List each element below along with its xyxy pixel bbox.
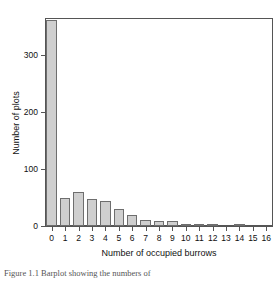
- x-axis-tick: [266, 227, 267, 231]
- x-axis-tick: [186, 227, 187, 231]
- y-axis-tick-label: 0: [12, 222, 38, 231]
- x-axis-tick: [65, 227, 66, 231]
- figure-container: 0100200300 012345678910111213141516 Numb…: [0, 0, 279, 283]
- y-axis-tick: [41, 169, 45, 170]
- x-axis-tick: [52, 227, 53, 231]
- x-axis-tick: [199, 227, 200, 231]
- x-axis-tick: [92, 227, 93, 231]
- bar: [114, 209, 124, 226]
- bar: [60, 198, 70, 226]
- x-axis-tick: [253, 227, 254, 231]
- bar: [127, 215, 137, 226]
- y-axis-tick: [41, 55, 45, 56]
- x-axis-tick: [79, 227, 80, 231]
- x-axis-tick: [105, 227, 106, 231]
- y-axis-tick: [41, 112, 45, 113]
- y-axis-line: [45, 18, 46, 226]
- x-axis-tick: [226, 227, 227, 231]
- x-axis-tick: [239, 227, 240, 231]
- bar: [87, 199, 97, 226]
- bar: [73, 192, 83, 226]
- y-axis-tick: [41, 226, 45, 227]
- x-axis-tick: [146, 227, 147, 231]
- bar: [46, 20, 56, 226]
- y-axis-tick-label: 300: [12, 51, 38, 60]
- figure-caption: Figure 1.1 Barplot showing the numbers o…: [4, 268, 276, 279]
- x-axis-tick-label: 16: [258, 233, 274, 243]
- x-axis-title: Number of occupied burrows: [45, 248, 273, 258]
- x-axis-tick: [172, 227, 173, 231]
- x-axis-tick: [213, 227, 214, 231]
- x-axis-tick: [132, 227, 133, 231]
- bar-series: [45, 14, 273, 226]
- x-axis-tick: [159, 227, 160, 231]
- y-axis-title: Number of plots: [11, 63, 21, 183]
- bar: [100, 201, 110, 226]
- x-axis-tick: [119, 227, 120, 231]
